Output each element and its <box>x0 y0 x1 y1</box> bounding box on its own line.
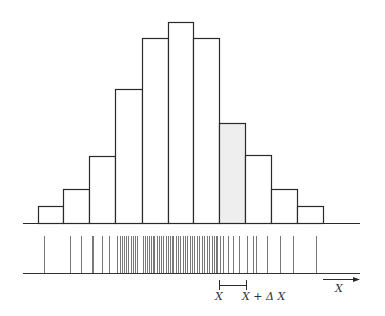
interval-bracket <box>219 280 247 290</box>
histogram-bin <box>298 207 324 224</box>
histogram-bin <box>143 39 169 224</box>
histogram-bin <box>272 190 298 224</box>
histogram-bin <box>116 90 143 224</box>
histogram-bars <box>39 23 324 224</box>
histogram-bin <box>194 39 220 224</box>
interval-start-label: X <box>214 290 224 303</box>
histogram-bin <box>169 23 194 224</box>
interval-end-label: X + Δ X <box>241 290 286 303</box>
histogram-bin <box>90 157 116 224</box>
histogram-bin <box>64 190 90 224</box>
histogram-bin <box>246 156 272 224</box>
histogram-bin <box>39 207 64 224</box>
sample-strip-plot <box>45 236 317 273</box>
highlighted-bin <box>220 124 246 224</box>
histogram-figure: X X + Δ X X <box>0 0 385 316</box>
x-axis-label: X <box>334 282 344 295</box>
